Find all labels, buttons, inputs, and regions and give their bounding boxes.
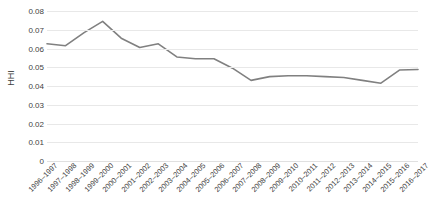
y-tick-label: 0.07 — [14, 25, 44, 34]
gridline — [47, 11, 418, 12]
gridline — [47, 86, 418, 87]
plot-area — [47, 11, 418, 161]
gridline — [47, 105, 418, 106]
y-tick-label: 0.05 — [14, 63, 44, 72]
y-tick-label: 0.06 — [14, 44, 44, 53]
y-tick-label: 0.01 — [14, 138, 44, 147]
x-axis-tick-labels: 1996–19971997–19981998–19991999–20002000… — [47, 161, 418, 213]
gridline — [47, 142, 418, 143]
y-tick-label: 0 — [14, 157, 44, 166]
gridline — [47, 124, 418, 125]
gridline — [47, 49, 418, 50]
y-tick-label: 0.08 — [14, 7, 44, 16]
y-tick-label: 0.02 — [14, 119, 44, 128]
gridline — [47, 67, 418, 68]
y-tick-label: 0.03 — [14, 100, 44, 109]
gridline — [47, 30, 418, 31]
y-tick-label: 0.04 — [14, 82, 44, 91]
